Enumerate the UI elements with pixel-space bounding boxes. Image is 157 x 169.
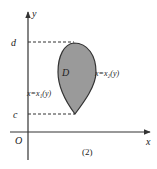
figure-caption: (2) <box>82 147 93 157</box>
d-label: d <box>11 37 17 48</box>
x-axis-label: x <box>145 136 151 147</box>
origin-label: O <box>15 135 22 146</box>
region-d <box>58 43 96 114</box>
region-label: D <box>61 67 70 78</box>
diagram-canvas: y x O d c D x=x₁(y) x=x₂(y) (2) <box>0 0 157 169</box>
left-curve-label: x=x₁(y) <box>26 89 51 98</box>
right-curve-label: x=x₂(y) <box>94 69 119 78</box>
c-label: c <box>13 109 18 120</box>
y-axis-label: y <box>31 8 37 19</box>
